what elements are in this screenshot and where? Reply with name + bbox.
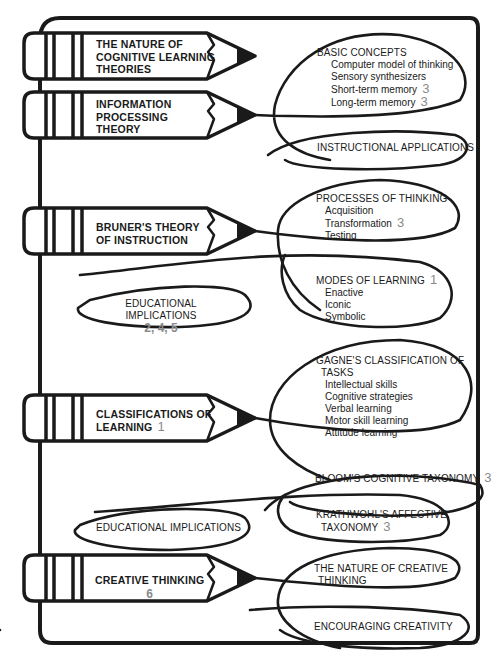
pencil-classifications-of-learning: CLASSIFICATIONS OF LEARNING1: [96, 408, 211, 433]
oval-heading: EDUCATIONAL IMPLICATIONS: [96, 522, 241, 534]
pencil-label-line: INFORMATION: [96, 98, 172, 111]
oval-heading: BASIC CONCEPTS: [317, 47, 453, 59]
oval-item: Iconic: [316, 299, 437, 311]
pencil-label-line: LEARNING: [96, 421, 152, 433]
concept-map: THE NATURE OF COGNITIVE LEARNING THEORIE…: [0, 0, 500, 660]
pencil-label-line: CREATIVE THINKING: [95, 574, 204, 587]
oval-processes-of-thinking: PROCESSES OF THINKING Acquisition Transf…: [316, 193, 447, 242]
oval-modes-of-learning: MODES OF LEARNING1 Enactive Iconic Symbo…: [316, 274, 437, 323]
oval-item: Symbolic: [316, 311, 437, 323]
chapter-number: 3: [383, 519, 390, 534]
pencil-nature-of-cognitive-learning-theories: THE NATURE OF COGNITIVE LEARNING THEORIE…: [96, 38, 215, 76]
oval-item: Short-term memory: [331, 84, 417, 95]
oval-heading: THE NATURE OF CREATIVE: [314, 563, 448, 575]
oval-basic-concepts: BASIC CONCEPTS Computer model of thinkin…: [317, 47, 453, 109]
oval-item: Long-term memory: [331, 97, 415, 108]
pencil-label-line: COGNITIVE LEARNING: [96, 51, 215, 64]
oval-item: Motor skill learning: [316, 415, 464, 427]
oval-nature-of-creative-thinking: THE NATURE OF CREATIVE THINKING: [314, 563, 448, 587]
oval-gagnes-classification: GAGNE'S CLASSIFICATION OF TASKS Intellec…: [316, 355, 464, 439]
chapter-number: 3: [484, 470, 491, 485]
chapter-number: 1: [430, 272, 437, 287]
chapter-number: 3: [420, 94, 427, 109]
chapter-number: 3: [397, 215, 404, 230]
pencil-label-line: THEORIES: [96, 63, 215, 76]
pencil-label-line: THE NATURE OF: [96, 38, 215, 51]
oval-item: Intellectual skills: [316, 379, 464, 391]
oval-item: Computer model of thinking: [331, 59, 453, 70]
oval-item: Testing: [325, 230, 357, 241]
pencil-information-processing-theory: INFORMATION PROCESSING THEORY: [96, 98, 172, 136]
oval-educational-implications-classifications: EDUCATIONAL IMPLICATIONS: [96, 522, 241, 534]
oval-item: Attitude learning: [316, 427, 464, 439]
oval-heading: KRATHWOHL'S AFFECTIVE: [316, 509, 447, 521]
chapter-number: 1: [157, 419, 164, 434]
oval-blooms-cognitive-taxonomy: BLOOM'S COGNITIVE TAXONOMY3: [315, 472, 492, 485]
pencil-label-line: THEORY: [96, 123, 172, 136]
chapter-number: 6: [95, 588, 204, 601]
oval-item: Cognitive strategies: [316, 391, 464, 403]
oval-heading: EDUCATIONAL IMPLICATIONS: [96, 298, 226, 322]
oval-krathwohls-affective-taxonomy: KRATHWOHL'S AFFECTIVE TAXONOMY3: [316, 509, 447, 534]
oval-educational-implications-bruner: EDUCATIONAL IMPLICATIONS 2, 4, 5: [96, 298, 226, 334]
oval-item: Enactive: [316, 287, 437, 299]
oval-heading: THINKING: [314, 575, 448, 587]
oval-encouraging-creativity: ENCOURAGING CREATIVITY: [314, 621, 453, 633]
chapter-numbers: 2, 4, 5: [96, 322, 226, 334]
pencil-label-line: CLASSIFICATIONS OF: [96, 408, 211, 421]
oval-heading: GAGNE'S CLASSIFICATION OF: [316, 355, 464, 367]
pencil-creative-thinking: CREATIVE THINKING 6: [95, 574, 204, 600]
oval-heading: TAXONOMY: [321, 522, 378, 533]
oval-heading: PROCESSES OF THINKING: [316, 193, 447, 205]
oval-heading: INSTRUCTIONAL APPLICATIONS: [317, 142, 474, 154]
oval-item: Verbal learning: [316, 403, 464, 415]
oval-heading: ENCOURAGING CREATIVITY: [314, 621, 453, 633]
oval-instructional-applications: INSTRUCTIONAL APPLICATIONS: [317, 142, 474, 154]
pencil-label-line: BRUNER'S THEORY: [96, 221, 200, 234]
oval-item: Transformation: [325, 218, 392, 229]
pencil-label-line: PROCESSING: [96, 111, 172, 124]
oval-heading: BLOOM'S COGNITIVE TAXONOMY: [315, 473, 479, 484]
pencil-label-line: OF INSTRUCTION: [96, 234, 200, 247]
oval-item: Acquisition: [325, 205, 373, 216]
oval-heading: TASKS: [316, 367, 464, 379]
oval-heading: MODES OF LEARNING: [316, 275, 425, 286]
pencil-bruners-theory-of-instruction: BRUNER'S THEORY OF INSTRUCTION: [96, 221, 200, 246]
oval-item: Sensory synthesizers: [331, 71, 426, 82]
